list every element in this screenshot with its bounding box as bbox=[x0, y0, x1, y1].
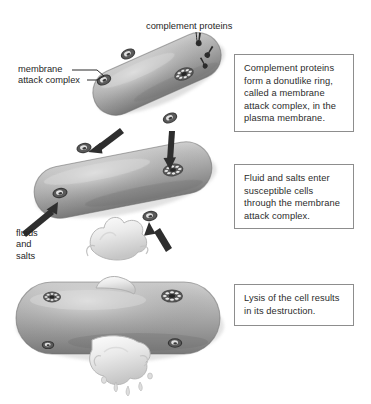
caption-box-fluid-influx: Fluid and salts enter susceptible cells … bbox=[234, 164, 354, 229]
label-fluids-and-salts: fluids and salts bbox=[16, 228, 38, 262]
caption-box-pore-formation: Complement proteins form a donutlike rin… bbox=[234, 54, 354, 132]
caption-box-lysis: Lysis of the cell results in its destruc… bbox=[234, 284, 354, 326]
stage-3-cell bbox=[16, 217, 224, 396]
label-membrane-attack-complex: membrane attack complex bbox=[18, 64, 80, 87]
complement-lysis-figure: complement proteins membrane attack comp… bbox=[0, 0, 371, 404]
cytoplasm-eruption-bottom bbox=[90, 336, 151, 385]
label-complement-proteins: complement proteins bbox=[146, 21, 232, 32]
stage-1-cell bbox=[72, 24, 234, 129]
cytoplasm-eruption-top bbox=[87, 217, 148, 260]
